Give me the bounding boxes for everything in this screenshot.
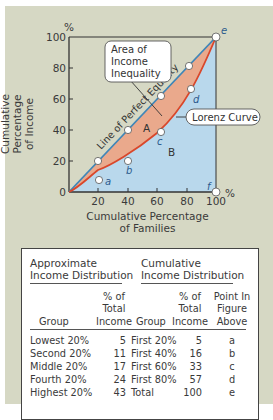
cell-cum-group: Total: [131, 387, 154, 399]
table-row: Highest 20% 43 Total 100 e: [22, 387, 258, 400]
col-pct-line1: % of: [96, 291, 132, 303]
col-pct-line1: % of: [172, 291, 208, 303]
cell-cum-group: First 60%: [131, 361, 177, 373]
cell-group: Fourth 20%: [30, 374, 86, 386]
col-header-group-right: Group: [136, 316, 166, 328]
cell-pct: 5: [106, 335, 126, 347]
right-header-rule: [141, 283, 233, 284]
y-axis-title-line1: Cumulative Percentage: [0, 69, 23, 179]
point-label-e: e: [221, 25, 227, 36]
x-tick-80: 80: [180, 195, 193, 207]
cell-cum-pct: 16: [182, 348, 202, 360]
cell-point: d: [222, 374, 242, 386]
cell-pct: 11: [106, 348, 126, 360]
y-tick-60: 60: [53, 93, 66, 105]
point-label-a: a: [105, 176, 111, 187]
column-header-rule: [30, 329, 246, 330]
callout-area-line1: Area of: [111, 44, 147, 55]
col-pct-line3: Income: [96, 316, 132, 328]
right-section-header: Cumulative Income Distribution: [141, 257, 244, 281]
point-label-d: d: [193, 94, 200, 105]
col-point-line3: Above: [210, 316, 254, 328]
point-equality-20: [94, 157, 101, 164]
point-equality-80: [185, 62, 192, 69]
y-tick-80: 80: [53, 62, 66, 74]
cell-pct: 24: [106, 374, 126, 386]
region-a-label: A: [143, 122, 151, 134]
cell-cum-pct: 100: [182, 387, 202, 399]
point-label-c: c: [157, 136, 163, 147]
cell-group: Highest 20%: [30, 387, 92, 399]
point-equality-60: [157, 92, 164, 99]
left-header-line1: Approximate: [30, 257, 133, 269]
col-header-pct-left: % of Total Income: [96, 291, 132, 328]
x-tick-20: 20: [91, 195, 104, 207]
cell-pct: 17: [106, 361, 126, 373]
y-axis-title-line2: of Income: [23, 69, 35, 179]
x-tick-40: 40: [121, 195, 134, 207]
x-axis-title: Cumulative Percentage of Families: [40, 210, 255, 234]
y-tick-20: 20: [53, 155, 66, 167]
cell-cum-pct: 5: [182, 335, 202, 347]
cell-group: Lowest 20%: [30, 335, 89, 347]
income-distribution-table: Approximate Income Distribution Cumulati…: [21, 248, 259, 420]
cell-point: e: [222, 387, 242, 399]
callout-lorenz-label: Lorenz Curve: [192, 112, 258, 123]
region-b-label: B: [168, 146, 175, 158]
y-axis-title: Cumulative Percentage of Income: [0, 69, 35, 179]
right-header-line2: Income Distribution: [141, 269, 244, 281]
cell-cum-pct: 33: [182, 361, 202, 373]
cell-point: a: [222, 335, 242, 347]
cell-group: Middle 20%: [30, 361, 87, 373]
point-a: [95, 176, 102, 183]
point-e: [212, 33, 220, 41]
cell-group: Second 20%: [30, 348, 91, 360]
col-header-pct-right: % of Total Income: [172, 291, 208, 328]
lorenz-chart: % 100 80 60 40 20 0 20 40 60 80 100 % a …: [0, 0, 273, 215]
point-b: [124, 157, 131, 164]
cell-pct: 43: [106, 387, 126, 399]
cell-cum-pct: 57: [182, 374, 202, 386]
col-point-line1: Point In: [210, 291, 254, 303]
col-pct-line2: Total: [96, 303, 132, 315]
point-equality-40: [124, 126, 131, 133]
left-header-line2: Income Distribution: [30, 269, 133, 281]
col-point-line2: Figure: [210, 303, 254, 315]
cell-cum-group: First 40%: [131, 348, 177, 360]
y-tick-40: 40: [53, 124, 66, 136]
x-axis-title-line2: of Families: [40, 222, 255, 234]
table-row: Fourth 20% 24 First 80% 57 d: [22, 374, 258, 387]
point-c: [157, 128, 164, 135]
col-header-point: Point In Figure Above: [210, 291, 254, 328]
callout-area-line3: Inequality: [111, 68, 161, 79]
cell-cum-group: First 80%: [131, 374, 177, 386]
table-body: Lowest 20% 5 First 20% 5 a Second 20% 11…: [22, 335, 258, 400]
x-axis-title-line1: Cumulative Percentage: [40, 210, 255, 222]
y-tick-100: 100: [46, 31, 66, 43]
table-row: Second 20% 11 First 40% 16 b: [22, 348, 258, 361]
cell-point: b: [222, 348, 242, 360]
col-pct-line2: Total: [172, 303, 208, 315]
left-header-rule: [30, 283, 122, 284]
table-row: Middle 20% 17 First 60% 33 c: [22, 361, 258, 374]
x-tick-100: 100: [206, 195, 226, 207]
point-label-b: b: [126, 165, 132, 176]
point-d: [187, 85, 194, 92]
table-row: Lowest 20% 5 First 20% 5 a: [22, 335, 258, 348]
col-header-group-left: Group: [39, 316, 69, 328]
x-tick-60: 60: [150, 195, 163, 207]
right-header-line1: Cumulative: [141, 257, 244, 269]
left-section-header: Approximate Income Distribution: [30, 257, 133, 281]
col-pct-line3: Income: [172, 316, 208, 328]
x-unit-label: %: [225, 187, 235, 199]
callout-area-line2: Income: [111, 56, 148, 67]
cell-cum-group: First 20%: [131, 335, 177, 347]
cell-point: c: [222, 361, 242, 373]
y-tick-0: 0: [59, 186, 66, 198]
